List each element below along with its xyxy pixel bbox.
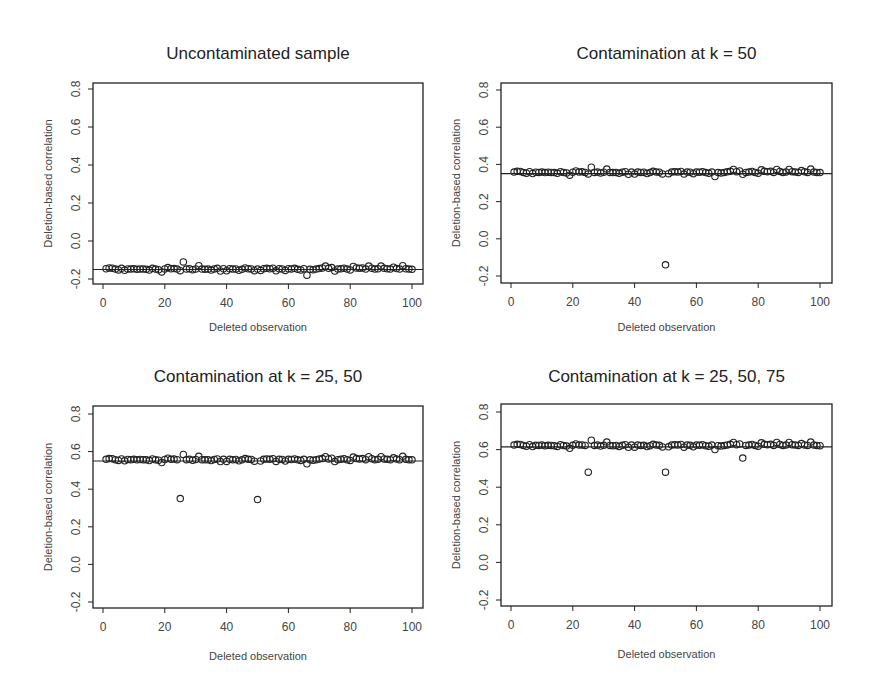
x-tick-label: 60	[690, 295, 704, 309]
y-tick-label: 0.8	[477, 81, 491, 98]
y-tick-label: 0.0	[477, 230, 491, 247]
y-tick-label: -0.2	[69, 591, 83, 612]
y-axis-label: Deletion-based correlation	[450, 119, 462, 247]
data-point	[662, 262, 668, 268]
x-tick-label: 0	[100, 620, 107, 634]
data-point	[177, 495, 183, 501]
y-tick-label: -0.2	[69, 268, 83, 289]
x-tick-label: 60	[282, 296, 296, 310]
plot-frame	[501, 83, 832, 283]
y-tick-label: 0.4	[477, 156, 491, 173]
charts-canvas: 020406080100-0.20.00.20.40.60.8Deleted o…	[0, 0, 873, 699]
y-tick-label: 0.2	[69, 518, 83, 535]
x-tick-label: 80	[344, 620, 358, 634]
y-axis-label: Deletion-based correlation	[42, 119, 54, 247]
x-tick-label: 100	[402, 296, 422, 310]
x-tick-label: 20	[158, 620, 172, 634]
x-tick-label: 40	[220, 296, 234, 310]
x-tick-label: 40	[220, 620, 234, 634]
x-tick-label: 20	[158, 296, 172, 310]
x-axis-label: Deleted observation	[618, 321, 716, 333]
plot-area: 020406080100-0.20.00.20.40.60.8Deleted o…	[42, 405, 423, 662]
data-point	[180, 259, 186, 265]
y-tick-label: 0.2	[69, 194, 83, 211]
y-tick-label: 0.6	[69, 443, 83, 460]
y-tick-label: 0.2	[477, 516, 491, 533]
y-tick-label: 0.6	[477, 441, 491, 458]
y-tick-label: 0.2	[477, 193, 491, 210]
x-tick-label: 0	[508, 618, 515, 632]
y-tick-label: 0.0	[69, 232, 83, 249]
y-tick-label: 0.8	[69, 405, 83, 422]
y-tick-label: 0.4	[69, 156, 83, 173]
y-tick-label: 0.0	[477, 554, 491, 571]
x-tick-label: 60	[282, 620, 296, 634]
x-tick-label: 80	[752, 618, 766, 632]
x-tick-label: 100	[402, 620, 422, 634]
y-tick-label: 0.0	[69, 556, 83, 573]
plot-frame	[501, 404, 832, 606]
x-tick-label: 40	[628, 618, 642, 632]
y-tick-label: 0.4	[69, 481, 83, 498]
plot-area: 020406080100-0.20.00.20.40.60.8Deleted o…	[42, 80, 423, 333]
x-axis-label: Deleted observation	[209, 650, 307, 662]
data-point	[585, 469, 591, 475]
x-tick-label: 0	[100, 296, 107, 310]
plot-area: 020406080100-0.20.00.20.40.60.8Deleted o…	[450, 403, 832, 660]
x-tick-label: 60	[690, 618, 704, 632]
x-tick-label: 20	[566, 618, 580, 632]
plot-frame	[93, 83, 423, 284]
y-tick-label: 0.4	[477, 479, 491, 496]
x-tick-label: 0	[508, 295, 515, 309]
plot-area: 020406080100-0.20.00.20.40.60.8Deleted o…	[450, 81, 832, 333]
plot-frame	[93, 406, 423, 608]
y-axis-label: Deletion-based correlation	[42, 443, 54, 571]
y-tick-label: -0.2	[477, 589, 491, 610]
data-point	[254, 496, 260, 502]
y-tick-label: 0.8	[477, 403, 491, 420]
x-tick-label: 20	[566, 295, 580, 309]
x-tick-label: 100	[810, 618, 830, 632]
x-tick-label: 80	[752, 295, 766, 309]
x-axis-label: Deleted observation	[209, 321, 307, 333]
x-tick-label: 80	[344, 296, 358, 310]
x-tick-label: 40	[628, 295, 642, 309]
x-axis-label: Deleted observation	[618, 648, 716, 660]
y-tick-label: -0.2	[477, 265, 491, 286]
data-point	[740, 455, 746, 461]
y-axis-label: Deletion-based correlation	[450, 441, 462, 569]
y-tick-label: 0.6	[477, 119, 491, 136]
y-tick-label: 0.8	[69, 80, 83, 97]
y-tick-label: 0.6	[69, 118, 83, 135]
x-tick-label: 100	[810, 295, 830, 309]
data-point	[662, 469, 668, 475]
